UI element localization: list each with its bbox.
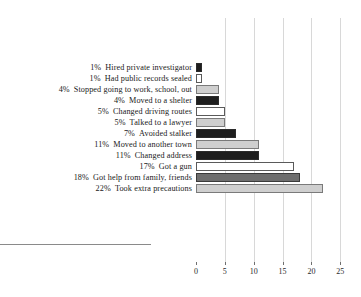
bar <box>196 107 225 116</box>
bar-slot <box>196 139 346 150</box>
category-value-label: 11% <box>94 139 109 150</box>
x-axis: 0510152025 <box>196 262 347 286</box>
category-value-label: 4% <box>114 95 125 106</box>
bar <box>196 162 294 171</box>
category-value-label: 18% <box>74 172 89 183</box>
x-tick-label: 20 <box>307 267 315 276</box>
bar <box>196 74 202 83</box>
x-tick-mark <box>254 262 255 265</box>
bar <box>196 129 236 138</box>
category-label-row: 11%Changed address <box>0 150 192 161</box>
x-tick-mark <box>283 262 284 265</box>
category-name-label: Took extra precautions <box>115 183 192 194</box>
category-label-row: 18%Got help from family, friends <box>0 172 192 183</box>
x-tick-label: 15 <box>279 267 287 276</box>
category-label-row: 7%Avoided stalker <box>0 128 192 139</box>
bar <box>196 96 219 105</box>
category-value-label: 5% <box>114 117 125 128</box>
bars-layer <box>196 62 346 194</box>
x-tick-mark <box>311 262 312 265</box>
bar-slot <box>196 183 346 194</box>
category-label-row: 1%Had public records sealed <box>0 73 192 84</box>
bar-slot <box>196 106 346 117</box>
category-name-label: Got help from family, friends <box>93 172 192 183</box>
x-tick-mark <box>196 262 197 265</box>
bar <box>196 140 259 149</box>
category-name-label: Moved to a shelter <box>129 95 192 106</box>
x-tick-mark <box>340 262 341 265</box>
horizontal-bar-chart: 1%Hired private investigator1%Had public… <box>0 0 361 297</box>
bar-slot <box>196 161 346 172</box>
category-label-row: 5%Changed driving routes <box>0 106 192 117</box>
category-label-row: 1%Hired private investigator <box>0 62 192 73</box>
bar-slot <box>196 62 346 73</box>
category-label-row: 22%Took extra precautions <box>0 183 192 194</box>
category-value-label: 22% <box>96 183 111 194</box>
bar <box>196 173 300 182</box>
bar-slot <box>196 172 346 183</box>
bar <box>196 118 225 127</box>
x-tick-label: 0 <box>194 267 198 276</box>
bar-slot <box>196 117 346 128</box>
category-label-row: 11%Moved to another town <box>0 139 192 150</box>
category-label-row: 17%Got a gun <box>0 161 192 172</box>
bar-slot <box>196 95 346 106</box>
category-name-label: Stopped going to work, school, out <box>74 84 192 95</box>
x-tick-label: 5 <box>223 267 227 276</box>
category-name-label: Changed driving routes <box>113 106 192 117</box>
x-tick-mark <box>225 262 226 265</box>
bar-slot <box>196 150 346 161</box>
category-label-row: 5%Talked to a lawyer <box>0 117 192 128</box>
category-name-label: Talked to a lawyer <box>130 117 192 128</box>
bar <box>196 151 259 160</box>
category-value-label: 5% <box>98 106 109 117</box>
x-axis-line <box>0 244 151 245</box>
category-name-label: Hired private investigator <box>105 62 192 73</box>
category-value-label: 1% <box>90 62 101 73</box>
category-name-label: Changed address <box>135 150 192 161</box>
x-tick-label: 10 <box>250 267 258 276</box>
category-value-label: 11% <box>116 150 131 161</box>
category-value-label: 1% <box>90 73 101 84</box>
category-name-label: Moved to another town <box>113 139 192 150</box>
bar <box>196 63 202 72</box>
bar-slot <box>196 73 346 84</box>
category-name-label: Had public records sealed <box>105 73 192 84</box>
plot-area <box>196 18 346 262</box>
category-label-row: 4%Stopped going to work, school, out <box>0 84 192 95</box>
category-name-label: Avoided stalker <box>139 128 192 139</box>
bar <box>196 85 219 94</box>
category-label-row: 4%Moved to a shelter <box>0 95 192 106</box>
category-value-label: 17% <box>139 161 154 172</box>
bar-slot <box>196 84 346 95</box>
x-tick-label: 25 <box>336 267 344 276</box>
category-value-label: 4% <box>59 84 70 95</box>
category-name-label: Got a gun <box>159 161 192 172</box>
category-value-label: 7% <box>124 128 135 139</box>
category-label-column: 1%Hired private investigator1%Had public… <box>0 62 192 194</box>
bar <box>196 184 323 193</box>
bar-slot <box>196 128 346 139</box>
